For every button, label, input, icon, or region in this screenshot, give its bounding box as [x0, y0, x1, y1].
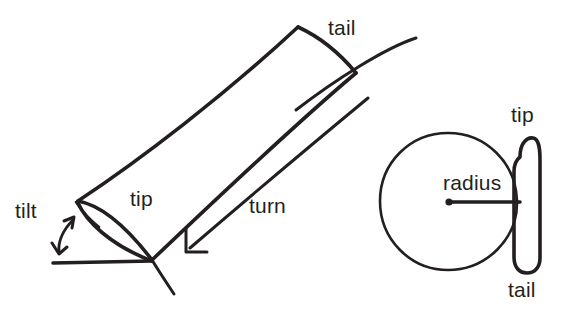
label-tip-right: tip [511, 104, 534, 125]
label-tail-bottom: tail [508, 279, 536, 300]
tip-nose-lower-curve [78, 203, 152, 261]
label-tail-top: tail [328, 17, 356, 38]
turn-arrow-shaft [190, 98, 368, 248]
label-radius: radius [443, 172, 501, 193]
tube-edge-extension [152, 260, 174, 294]
label-tip-left: tip [130, 188, 153, 209]
right-view-group [380, 133, 540, 273]
diagram-canvas: tail tip tilt turn radius tip tail [0, 0, 562, 329]
left-view-group [52, 27, 416, 294]
ground-baseline [53, 261, 152, 263]
tube-bottom-edge [152, 73, 356, 260]
tube-top-edge [78, 27, 298, 201]
label-tilt: tilt [15, 200, 37, 221]
diagram-linework [0, 0, 562, 329]
label-turn: turn [249, 195, 286, 216]
